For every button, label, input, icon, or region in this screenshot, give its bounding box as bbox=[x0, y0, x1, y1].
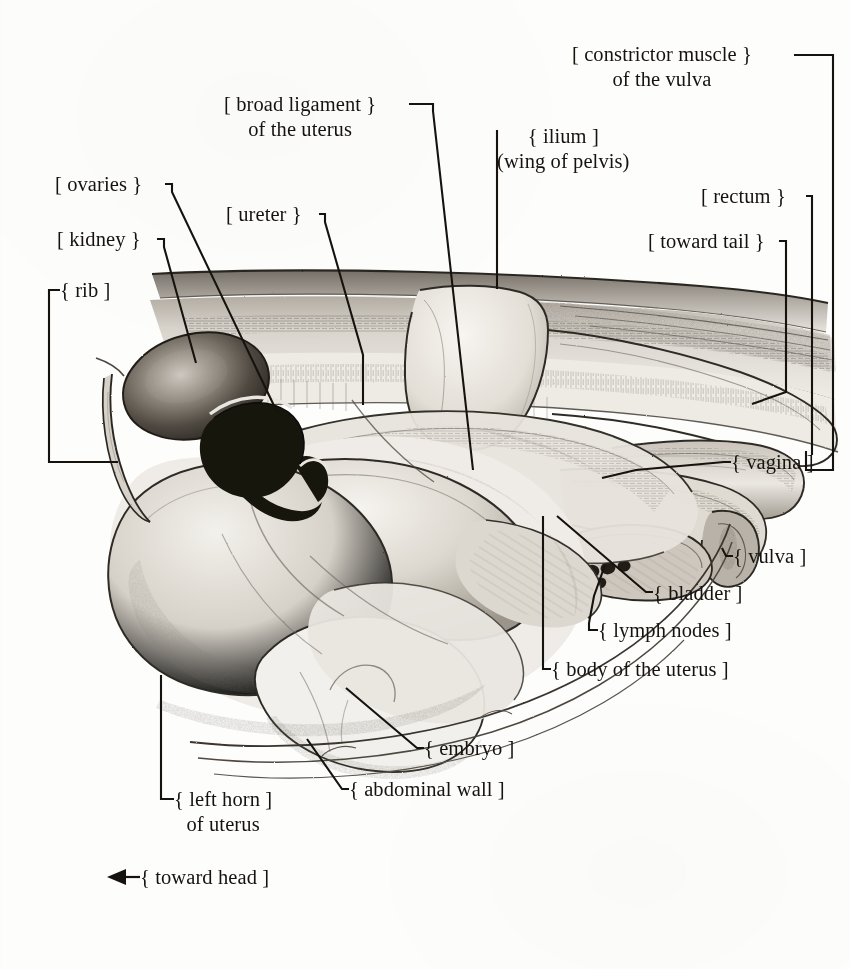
label-abdominal-wall: { abdominal wall ] bbox=[349, 777, 505, 801]
label-text: [ ovaries } bbox=[55, 173, 142, 195]
label-text: { body of the uterus ] bbox=[551, 658, 729, 680]
label-left-horn-of-uterus: { left horn ]of uterus bbox=[174, 787, 272, 837]
label-text: [ rectum } bbox=[701, 185, 786, 207]
label-text: { rib ] bbox=[60, 279, 110, 301]
label-text: { bladder ] bbox=[653, 582, 743, 604]
label-text: { vagina ] bbox=[731, 451, 814, 473]
label-text: [ kidney } bbox=[57, 228, 141, 250]
label-broad-ligament-of-the-uterus: [ broad ligament }of the uterus bbox=[224, 92, 376, 142]
label-vagina: { vagina ] bbox=[731, 450, 814, 474]
label-text: { ilium ] bbox=[528, 125, 599, 147]
label-text: { vulva ] bbox=[733, 545, 806, 567]
label-ovaries: [ ovaries } bbox=[55, 172, 142, 196]
label-bladder: { bladder ] bbox=[653, 581, 743, 605]
label-text: [ constrictor muscle } bbox=[572, 43, 752, 65]
label-text: { left horn ] bbox=[174, 788, 272, 810]
label-kidney: [ kidney } bbox=[57, 227, 141, 251]
label-embryo: { embryo ] bbox=[424, 736, 515, 760]
label-text-line2: of uterus bbox=[174, 812, 272, 837]
label-text: { abdominal wall ] bbox=[349, 778, 505, 800]
label-vulva: { vulva ] bbox=[733, 544, 806, 568]
label-text: [ toward tail } bbox=[648, 230, 765, 252]
label-body-of-the-uterus: { body of the uterus ] bbox=[551, 657, 729, 681]
label-text: [ ureter } bbox=[226, 203, 302, 225]
label-text-line2: (wing of pelvis) bbox=[497, 149, 630, 174]
label-toward-tail: [ toward tail } bbox=[648, 229, 765, 253]
anatomical-figure: [ constrictor muscle }of the vulva[ broa… bbox=[0, 0, 850, 969]
label-rectum: [ rectum } bbox=[701, 184, 786, 208]
label-text: { lymph nodes ] bbox=[598, 619, 732, 641]
label-lymph-nodes: { lymph nodes ] bbox=[598, 618, 732, 642]
label-constrictor-muscle-of-the-vulva: [ constrictor muscle }of the vulva bbox=[572, 42, 752, 92]
illustration-body bbox=[96, 270, 838, 779]
label-ilium: { ilium ](wing of pelvis) bbox=[497, 124, 630, 174]
label-ureter: [ ureter } bbox=[226, 202, 302, 226]
label-text: { embryo ] bbox=[424, 737, 515, 759]
label-text: { toward head ] bbox=[140, 866, 269, 888]
label-text: [ broad ligament } bbox=[224, 93, 376, 115]
anatomy-illustration bbox=[0, 0, 850, 969]
label-text-line2: of the uterus bbox=[224, 117, 376, 142]
label-toward-head: { toward head ] bbox=[140, 865, 269, 889]
label-text-line2: of the vulva bbox=[572, 67, 752, 92]
label-rib: { rib ] bbox=[60, 278, 110, 302]
